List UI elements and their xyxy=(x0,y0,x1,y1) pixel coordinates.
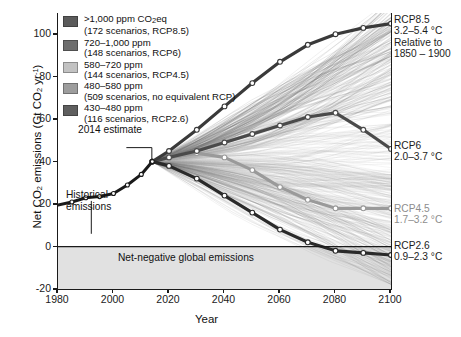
y-tick-label: 100 xyxy=(17,27,51,39)
x-tick-label: 2060 xyxy=(257,293,301,305)
figure-climate-emissions: Net CO2 emissions (Gt CO2 yr-1) 10080604… xyxy=(0,0,461,337)
y-tick-label: 0 xyxy=(17,240,51,252)
y-tick-mark xyxy=(53,76,57,78)
x-tick-mark xyxy=(112,289,114,293)
legend-swatch xyxy=(63,16,78,27)
x-tick-label: 2040 xyxy=(202,293,246,305)
y-tick-label: 40 xyxy=(17,155,51,167)
x-tick-label: 2000 xyxy=(91,293,135,305)
x-tick-mark xyxy=(389,289,391,293)
legend-item: >1,000 ppm CO2eq(172 scenarios, RCP8.5) xyxy=(63,14,235,37)
y-tick-mark xyxy=(53,246,57,248)
annotation-historical-emissions: Historical emissions xyxy=(66,189,111,212)
annotation-2014-estimate: 2014 estimate xyxy=(78,124,142,136)
legend-label: 580–720 ppm(144 scenarios, RCP4.5) xyxy=(84,60,189,81)
y-tick-mark xyxy=(53,118,57,120)
legend-swatch xyxy=(63,83,78,94)
legend: >1,000 ppm CO2eq(172 scenarios, RCP8.5)7… xyxy=(63,14,235,125)
y-tick-mark xyxy=(53,203,57,205)
legend-label: 480–580 ppm(509 scenarios, no equivalent… xyxy=(84,81,235,102)
x-tick-mark xyxy=(56,289,58,293)
y-tick-label: 60 xyxy=(17,112,51,124)
scenario-label-rcp85: RCP8.5 3.2–5.4 °C xyxy=(394,14,442,37)
legend-swatch xyxy=(63,40,78,51)
y-tick-label: 20 xyxy=(17,197,51,209)
legend-item: 480–580 ppm(509 scenarios, no equivalent… xyxy=(63,81,235,102)
y-tick-mark xyxy=(53,161,57,163)
x-tick-label: 2100 xyxy=(368,293,412,305)
x-tick-label: 2080 xyxy=(313,293,357,305)
legend-swatch xyxy=(63,105,78,116)
x-tick-mark xyxy=(223,289,225,293)
y-tick-mark xyxy=(53,33,57,35)
legend-swatch xyxy=(63,62,78,73)
scenario-label-relative-baseline: Relative to 1850 – 1900 xyxy=(394,37,451,60)
x-tick-label: 1980 xyxy=(35,293,79,305)
legend-item: 430–480 ppm(116 scenarios, RCP2.6) xyxy=(63,103,235,124)
scenario-label-rcp26: RCP2.6 0.9–2.3 °C xyxy=(394,240,442,263)
x-tick-mark xyxy=(334,289,336,293)
legend-item: 720–1,000 ppm(148 scenarios, RCP6) xyxy=(63,38,235,59)
legend-label: 430–480 ppm(116 scenarios, RCP2.6) xyxy=(84,103,188,124)
annotation-net-negative: Net-negative global emissions xyxy=(118,252,254,263)
legend-label: >1,000 ppm CO2eq(172 scenarios, RCP8.5) xyxy=(84,14,189,37)
scenario-label-rcp6: RCP6 2.0–3.7 °C xyxy=(394,140,442,163)
x-tick-mark xyxy=(167,289,169,293)
scenario-label-rcp45: RCP4.5 1.7–3.2 °C xyxy=(394,203,442,226)
x-tick-mark xyxy=(278,289,280,293)
x-axis-label: Year xyxy=(0,313,461,325)
x-tick-label: 2020 xyxy=(146,293,190,305)
legend-label: 720–1,000 ppm(148 scenarios, RCP6) xyxy=(84,38,181,59)
legend-item: 580–720 ppm(144 scenarios, RCP4.5) xyxy=(63,60,235,81)
y-tick-label: 80 xyxy=(17,70,51,82)
